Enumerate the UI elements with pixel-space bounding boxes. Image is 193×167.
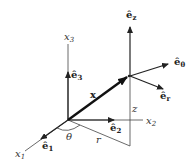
r-label: r xyxy=(96,134,102,145)
x-vector-label: x xyxy=(90,89,97,100)
position-vector-x xyxy=(68,77,127,120)
x2-label: x2 xyxy=(146,115,157,128)
er-arrow xyxy=(130,76,163,89)
z-label: z xyxy=(131,103,138,114)
etheta-label: êθ xyxy=(174,56,185,69)
theta-label: θ xyxy=(66,131,72,142)
etheta-arrow xyxy=(130,64,168,76)
e1-arrow xyxy=(41,120,68,139)
e3-label: ê3 xyxy=(71,69,82,82)
e2-label: ê2 xyxy=(110,122,121,135)
x3-label: x3 xyxy=(64,31,75,44)
cylindrical-coordinates-diagram: x3 ê3 x2 ê2 x1 ê1 x θ r z êz êθ êr xyxy=(0,0,193,167)
er-label: êr xyxy=(160,90,170,103)
e1-label: ê1 xyxy=(42,140,53,153)
ez-label: êz xyxy=(126,9,136,22)
x1-label: x1 xyxy=(15,148,25,161)
